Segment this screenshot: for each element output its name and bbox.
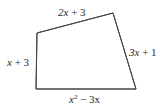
label-bottom-rest: − 3x — [77, 93, 100, 105]
label-top-var: 2x — [58, 6, 69, 18]
quadrilateral-shape — [36, 13, 136, 89]
label-left-side: x + 3 — [6, 56, 30, 68]
label-left-rest: + 3 — [12, 56, 30, 68]
label-right-side: 3x + 1 — [128, 46, 157, 58]
quadrilateral-diagram: 2x + 3 3x + 1 x + 3 x2 − 3x — [0, 0, 166, 108]
label-right-rest: + 1 — [139, 46, 156, 58]
edge-left — [36, 33, 37, 89]
label-right-var: 3x — [128, 46, 140, 58]
label-bottom-side: x2 − 3x — [68, 93, 101, 105]
label-top-side: 2x + 3 — [58, 6, 86, 18]
label-top-rest: + 3 — [68, 6, 86, 18]
